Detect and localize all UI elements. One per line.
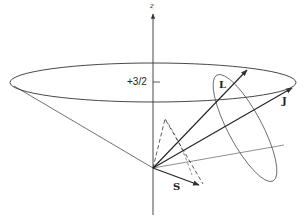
vector-l-label: L [219,80,226,90]
vector-l [153,70,247,168]
angular-momentum-diagram [0,0,306,220]
dashed-s-cone-inner [165,119,192,175]
cone-left-edge [14,86,153,168]
vector-j-label: J [282,96,287,106]
vector-s-label: S [173,182,180,192]
z-axis-label: z [150,3,154,10]
projection-label: +3/2 [127,77,147,87]
ls-precession-ellipse [202,67,288,189]
dashed-s-cone [153,119,203,184]
